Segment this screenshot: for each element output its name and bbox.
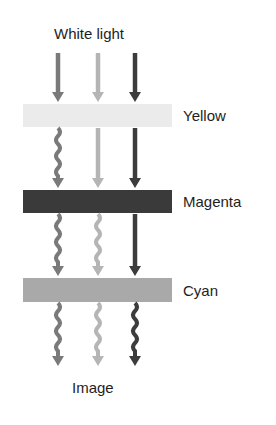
- ray-red-segment-3: [56, 303, 60, 358]
- arrowhead-icon: [92, 178, 104, 188]
- arrowhead-icon: [52, 92, 64, 102]
- ray-red-segment-1: [56, 128, 60, 180]
- label-magenta: Magenta: [183, 193, 241, 210]
- arrowhead-icon: [129, 356, 141, 366]
- ray-green-segment-3: [96, 303, 100, 358]
- label-cyan: Cyan: [183, 282, 218, 299]
- label-image: Image: [72, 379, 114, 396]
- arrowhead-icon: [129, 266, 141, 276]
- arrowhead-icon: [92, 92, 104, 102]
- arrowhead-icon: [52, 178, 64, 188]
- arrowhead-icon: [52, 266, 64, 276]
- arrowhead-icon: [92, 356, 104, 366]
- arrowhead-icon: [129, 178, 141, 188]
- ray-green-segment-2: [96, 214, 100, 268]
- filter-yellow: [23, 104, 172, 127]
- arrowhead-icon: [129, 92, 141, 102]
- filter-magenta: [23, 190, 172, 213]
- label-yellow: Yellow: [183, 107, 226, 124]
- ray-red-segment-2: [56, 214, 60, 268]
- filter-cyan: [23, 278, 172, 302]
- subtractive-color-diagram: [0, 0, 276, 425]
- ray-blue-segment-3: [133, 303, 137, 358]
- arrowhead-icon: [52, 356, 64, 366]
- arrowhead-icon: [92, 266, 104, 276]
